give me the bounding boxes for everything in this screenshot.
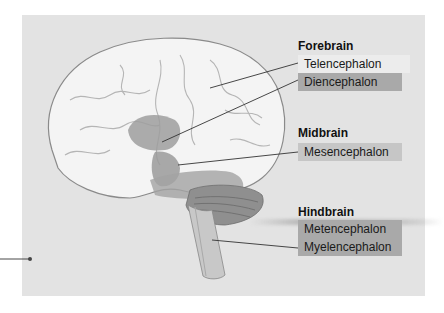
diencephalon-label: Diencephalon bbox=[298, 73, 402, 91]
mesencephalon-label: Mesencephalon bbox=[298, 143, 402, 161]
forebrain-title: Forebrain bbox=[298, 39, 353, 53]
metencephalon-label: Metencephalon bbox=[298, 220, 402, 238]
telencephalon-label: Telencephalon bbox=[298, 55, 410, 73]
myelencephalon-label: Myelencephalon bbox=[298, 238, 402, 256]
hindbrain-title: Hindbrain bbox=[298, 205, 354, 219]
midbrain-title: Midbrain bbox=[298, 126, 348, 140]
pointer-dot bbox=[28, 257, 32, 261]
